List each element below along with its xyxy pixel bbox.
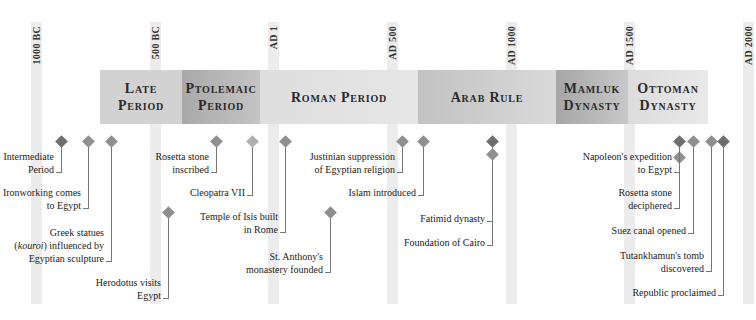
event-diamond-icon — [687, 135, 700, 148]
event-label-line: Rosetta stone — [618, 186, 672, 199]
event-label: IntermediatePeriod — [3, 150, 54, 176]
axis-label-ad500: AD 500 — [387, 26, 398, 86]
period-label-line2: Dynasty — [564, 97, 621, 114]
event-connector-hook — [706, 271, 712, 272]
period-label-line2: Period — [118, 97, 164, 114]
event-connector-hook — [247, 195, 253, 196]
tick-text: AD 1 — [268, 26, 279, 49]
event-connector-line — [679, 145, 680, 208]
tick-text: AD 2000 — [743, 26, 754, 65]
event-label-line: (kouroi) influenced by — [14, 239, 104, 252]
event-connector-line — [168, 216, 169, 298]
event-diamond-icon — [417, 135, 430, 148]
event-connector-hook — [718, 295, 724, 296]
event-label: Ironworking comesto Egypt — [3, 186, 81, 212]
event-label-line: Herodotus visits — [96, 276, 161, 289]
period-ottoman: OttomanDynasty — [628, 70, 708, 124]
tick-text: AD 1000 — [506, 26, 517, 65]
event-connector-line — [330, 216, 331, 272]
event-label-line: Foundation of Cairo — [404, 236, 485, 249]
event-label: Islam introduced — [349, 186, 416, 199]
axis-label-ad1: AD 1 — [268, 26, 279, 86]
period-ptolemaic: PtolemaicPeriod — [182, 70, 260, 124]
period-label-line1: Ottoman — [637, 80, 698, 97]
event-connector-hook — [688, 233, 694, 234]
event-connector-line — [61, 145, 62, 172]
event-label-line: Egyptian sculpture — [14, 252, 104, 265]
event-connector-line — [693, 145, 694, 233]
event-diamond-icon — [486, 148, 499, 161]
event-label: Rosetta stonedeciphered — [618, 186, 672, 212]
period-label-line1: Roman Period — [291, 89, 387, 106]
event-label-line: to Egypt — [583, 163, 672, 176]
event-label: Fatimid dynasty — [420, 212, 485, 225]
event-connector-hook — [487, 245, 493, 246]
event-label-line: Temple of Isis built — [200, 210, 278, 223]
axis-label-ad1000: AD 1000 — [506, 26, 517, 86]
event-label: Herodotus visitsEgypt — [96, 276, 161, 302]
event-connector-hook — [83, 208, 89, 209]
event-label-line: discovered — [620, 262, 704, 275]
event-label: Napoleon's expeditionto Egypt — [583, 150, 672, 176]
event-label-line: Egypt — [96, 289, 161, 302]
period-label-line2: Dynasty — [637, 97, 698, 114]
event-label-line: Period — [3, 163, 54, 176]
axis-label-ad1500: AD 1500 — [624, 26, 635, 86]
event-connector-hook — [56, 172, 62, 173]
event-connector-hook — [418, 195, 424, 196]
axis-label-1000bc: 1000 BC — [31, 26, 42, 86]
period-late: LatePeriod — [100, 70, 182, 124]
period-label-line1: Mamluk — [564, 80, 621, 97]
event-label-line: Fatimid dynasty — [420, 212, 485, 225]
event-diamond-icon — [279, 135, 292, 148]
event-label-line: Cleopatra VII — [190, 186, 245, 199]
event-label: Greek statues(kouroi) influenced byEgypt… — [14, 226, 104, 265]
event-label: Tutankhamun's tombdiscovered — [620, 249, 704, 275]
event-connector-line — [711, 145, 712, 271]
event-label-line: deciphered — [618, 199, 672, 212]
period-mamluk: MamlukDynasty — [556, 70, 628, 124]
period-label-line2: Period — [185, 97, 256, 114]
event-label: Cleopatra VII — [190, 186, 245, 199]
event-label-line: Tutankhamun's tomb — [620, 249, 704, 262]
period-label-line1: Ptolemaic — [185, 80, 256, 97]
event-label-line: inscribed — [155, 163, 209, 176]
event-diamond-icon — [210, 135, 223, 148]
tick-text: AD 1500 — [624, 26, 635, 65]
period-label-line1: Arab Rule — [451, 89, 524, 106]
event-label: Suez canal opened — [612, 224, 686, 237]
event-label-line: of Egyptian religion — [310, 163, 395, 176]
event-label-line: Republic proclaimed — [632, 286, 716, 299]
event-connector-line — [423, 145, 424, 195]
event-connector-hook — [397, 172, 403, 173]
event-connector-line — [723, 145, 724, 295]
event-label-line: monastery founded — [246, 263, 323, 276]
event-connector-line — [252, 145, 253, 195]
event-diamond-icon — [246, 135, 259, 148]
event-label-line: Napoleon's expedition — [583, 150, 672, 163]
event-connector-hook — [106, 261, 112, 262]
tick-text: AD 500 — [387, 26, 398, 60]
event-label: St. Anthony'smonastery founded — [246, 250, 323, 276]
event-diamond-icon — [486, 135, 499, 148]
tick-text: 1000 BC — [31, 26, 42, 65]
event-diamond-icon — [162, 206, 175, 219]
event-diamond-icon — [673, 135, 686, 148]
axis-label-ad2000: AD 2000 — [743, 26, 754, 86]
event-diamond-icon — [55, 135, 68, 148]
event-connector-line — [111, 145, 112, 261]
event-label-line: in Rome — [200, 223, 278, 236]
event-label-line: Suez canal opened — [612, 224, 686, 237]
event-connector-hook — [163, 298, 169, 299]
event-connector-hook — [325, 272, 331, 273]
event-diamond-icon — [717, 135, 730, 148]
event-connector-line — [216, 145, 217, 172]
event-diamond-icon — [324, 206, 337, 219]
event-connector-line — [492, 158, 493, 245]
event-connector-line — [402, 145, 403, 172]
event-label-line: Justinian suppression — [310, 150, 395, 163]
event-connector-line — [88, 145, 89, 208]
event-label-line: Ironworking comes — [3, 186, 81, 199]
event-label-line: to Egypt — [3, 199, 81, 212]
event-diamond-icon — [705, 135, 718, 148]
